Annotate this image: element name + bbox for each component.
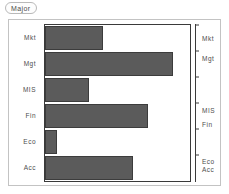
axis-label-right-acc: Acc xyxy=(202,166,214,173)
axis-tick-right-fin xyxy=(195,103,199,104)
bar-eco[interactable] xyxy=(45,130,57,154)
bar-row xyxy=(45,156,190,180)
axis-label-left-mis: MIS xyxy=(23,86,36,93)
axis-label-right-eco: Eco xyxy=(202,158,215,165)
axis-label-right-mis: MIS xyxy=(202,106,215,113)
chart-card: MktMgtMISFinEcoAcc MktMgtMISFinEcoAcc xyxy=(8,19,221,186)
axis-label-left-fin: Fin xyxy=(25,112,36,119)
axis-label-left-mgt: Mgt xyxy=(24,60,36,67)
plot-area xyxy=(45,25,190,181)
axis-label-left-eco: Eco xyxy=(23,138,36,145)
plot-frame xyxy=(44,24,191,182)
axis-tick-right-mgt xyxy=(195,51,199,52)
bar-acc[interactable] xyxy=(45,156,133,180)
bar-mgt[interactable] xyxy=(45,52,173,76)
bar-mkt[interactable] xyxy=(45,26,103,50)
bar-mis[interactable] xyxy=(45,78,89,102)
bar-row xyxy=(45,26,190,50)
major-chip-label: Major xyxy=(11,5,31,12)
axis-tick-right-eco xyxy=(195,129,199,130)
bar-fin[interactable] xyxy=(45,104,148,128)
axis-tick-right-mkt xyxy=(195,25,199,26)
axis-tick-right-acc xyxy=(195,155,199,156)
bar-row xyxy=(45,104,190,128)
bar-row xyxy=(45,78,190,102)
axis-label-right-mkt: Mkt xyxy=(202,35,214,42)
value-axis-right: MktMgtMISFinEcoAcc xyxy=(195,24,222,182)
axis-label-left-mkt: Mkt xyxy=(24,34,36,41)
category-axis-left: MktMgtMISFinEcoAcc xyxy=(9,24,44,182)
axis-tick-right-mis xyxy=(195,77,199,78)
bar-row xyxy=(45,52,190,76)
bar-row xyxy=(45,130,190,154)
axis-label-right-fin: Fin xyxy=(202,120,213,127)
major-chip[interactable]: Major xyxy=(5,2,37,14)
axis-label-right-mgt: Mgt xyxy=(202,55,214,62)
axis-label-left-acc: Acc xyxy=(24,164,36,171)
